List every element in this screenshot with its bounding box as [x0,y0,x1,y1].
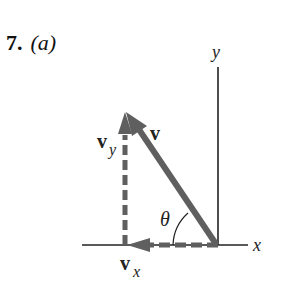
theta-label: θ [160,208,170,230]
vy-label: v [97,130,107,152]
x-axis-label: x [252,235,261,255]
angle-arc [173,213,188,245]
vx-subscript: x [132,263,140,280]
v-label: v [150,122,160,144]
vy-subscript: y [107,141,117,159]
vector-diagram: y x v v y v x θ [0,0,287,290]
vx-label: v [120,252,130,274]
vx-arrowhead [127,238,150,252]
y-axis-label: y [210,42,220,62]
